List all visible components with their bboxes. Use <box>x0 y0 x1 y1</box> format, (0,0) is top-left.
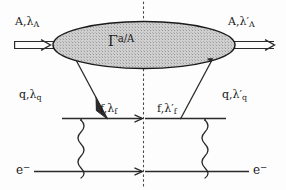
blob-label-base: Γ <box>108 33 118 49</box>
feynman-diagram-canvas: Γa/A A,λA A,λ′A q,λq q,λ′q f,λf f,λ′f e−… <box>0 0 286 190</box>
quark-line-right <box>181 59 213 118</box>
electron-in-sup: − <box>23 162 30 172</box>
photon-wavy-right <box>202 120 208 178</box>
quark-right-base: q, <box>222 88 233 101</box>
photon-wavy-left <box>78 120 84 178</box>
outgoing-hadron-sub: A <box>249 20 255 29</box>
label-outgoing-hadron: A,λ′A <box>228 16 255 29</box>
label-quark-right: q,λ′q <box>222 89 247 102</box>
label-incoming-hadron: A,λA <box>15 16 39 29</box>
outgoing-hadron-greek: λ′ <box>239 15 248 28</box>
quark-left-sub: q <box>37 93 42 102</box>
fermion-right-greek: λ′ <box>164 102 173 115</box>
label-electron-out: e− <box>253 163 267 176</box>
quark-right-greek: λ′ <box>233 88 242 101</box>
gamma-blob <box>53 22 235 69</box>
label-electron-in: e− <box>16 163 30 176</box>
electron-out-sup: − <box>260 162 267 172</box>
quark-left-greek: λ <box>30 88 37 101</box>
outgoing-hadron-base: A, <box>228 15 239 28</box>
blob-label-superscript: a/A <box>118 33 135 44</box>
fermion-left-sub: f <box>114 107 117 116</box>
label-fermion-left: f,λf <box>100 103 117 116</box>
quark-left-base: q, <box>19 88 30 101</box>
blob-label: Γa/A <box>108 34 134 48</box>
outgoing-hadron-line <box>232 40 275 51</box>
incoming-hadron-line <box>14 40 55 51</box>
incoming-hadron-sub: A <box>33 20 39 29</box>
fermion-right-sub: f <box>174 107 177 116</box>
label-fermion-right: f,λ′f <box>157 103 177 116</box>
quark-right-sub: q <box>242 93 247 102</box>
label-quark-left: q,λq <box>19 89 42 102</box>
incoming-hadron-base: A, <box>15 15 26 28</box>
